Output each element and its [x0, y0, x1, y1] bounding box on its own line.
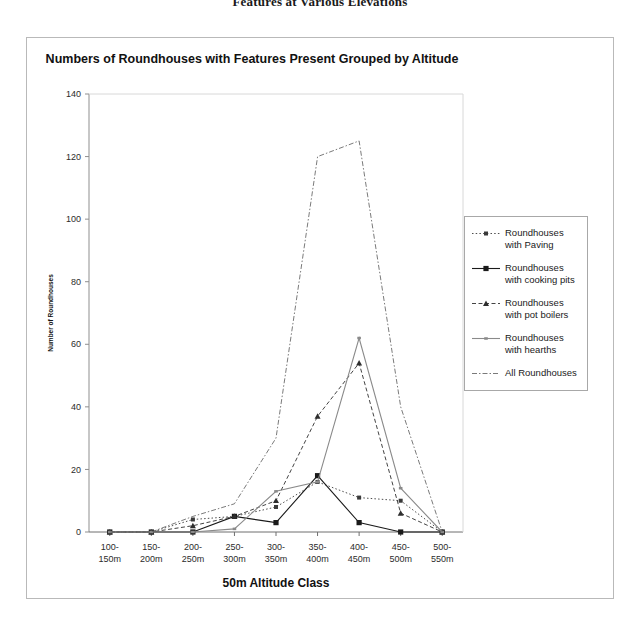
y-tick-label: 60 [71, 339, 81, 349]
legend-label: Roundhouses with hearths [505, 332, 581, 356]
legend-item: Roundhouses with pot boilers [471, 297, 581, 321]
legend-label: Roundhouses with cooking pits [505, 262, 581, 286]
data-point [398, 529, 403, 534]
x-tick-label: 500m [389, 554, 412, 564]
legend-item: All Roundhouses [471, 367, 581, 380]
y-tick-label: 140 [66, 89, 81, 99]
y-tick-label: 40 [71, 402, 81, 412]
data-point [357, 496, 361, 500]
y-tick-label: 100 [66, 214, 81, 224]
series-line [110, 141, 442, 532]
x-tick-label: 350m [265, 554, 288, 564]
x-tick-label: 400m [306, 554, 329, 564]
chart-frame: Numbers of Roundhouses with Features Pre… [26, 37, 614, 599]
legend-marker [484, 232, 488, 236]
data-point [233, 528, 237, 531]
data-point [273, 520, 278, 525]
data-point [274, 490, 278, 493]
legend-marker [483, 266, 488, 271]
series-5 [110, 141, 442, 532]
legend-marker [484, 337, 488, 340]
series-2 [107, 473, 445, 535]
x-tick-label: 200m [140, 554, 163, 564]
x-tick-label: 550m [431, 554, 454, 564]
legend-key-icon [471, 332, 501, 345]
chart-legend: Roundhouses with PavingRoundhouses with … [464, 216, 588, 391]
x-tick-label: 150- [142, 542, 160, 552]
document-header: Features at Various Elevations [0, 0, 640, 10]
data-point [274, 505, 278, 509]
data-point [316, 481, 320, 484]
data-point [398, 510, 404, 515]
data-point [273, 498, 279, 503]
legend-label: Roundhouses with pot boilers [505, 297, 581, 321]
x-tick-label: 250- [225, 542, 243, 552]
legend-key-icon [471, 367, 501, 380]
x-tick-label: 100- [101, 542, 119, 552]
chart-page: Features at Various Elevations Numbers o… [0, 0, 640, 626]
x-tick-label: 400- [350, 542, 368, 552]
data-point [357, 520, 362, 525]
x-tick-label: 300- [267, 542, 285, 552]
data-point [399, 499, 403, 503]
legend-label: All Roundhouses [505, 367, 577, 379]
y-tick-label: 80 [71, 277, 81, 287]
data-point [357, 337, 361, 340]
x-tick-label: 300m [223, 554, 246, 564]
legend-item: Roundhouses with Paving [471, 227, 581, 251]
x-tick-label: 200- [184, 542, 202, 552]
legend-key-icon [471, 262, 501, 275]
x-tick-label: 450- [392, 542, 410, 552]
series-4 [108, 337, 444, 533]
x-tick-label: 500- [433, 542, 451, 552]
x-tick-label: 450m [348, 554, 371, 564]
x-axis-title: 50m Altitude Class [223, 576, 330, 590]
legend-item: Roundhouses with cooking pits [471, 262, 581, 286]
data-point [399, 487, 403, 490]
x-tick-label: 350- [309, 542, 327, 552]
legend-label: Roundhouses with Paving [505, 227, 581, 251]
y-tick-label: 20 [71, 465, 81, 475]
x-tick-label: 150m [99, 554, 122, 564]
y-tick-label: 0 [76, 527, 81, 537]
data-point [356, 360, 362, 365]
legend-key-icon [471, 297, 501, 310]
y-axis-title: Number of Roundhouses [47, 274, 54, 352]
data-point [191, 517, 195, 521]
legend-key-icon [471, 227, 501, 240]
x-tick-label: 250m [182, 554, 205, 564]
chart-plot-area: 020406080100120140100-150m150-200m200-25… [27, 38, 487, 598]
data-point [191, 531, 195, 534]
legend-item: Roundhouses with hearths [471, 332, 581, 356]
y-tick-label: 120 [66, 152, 81, 162]
